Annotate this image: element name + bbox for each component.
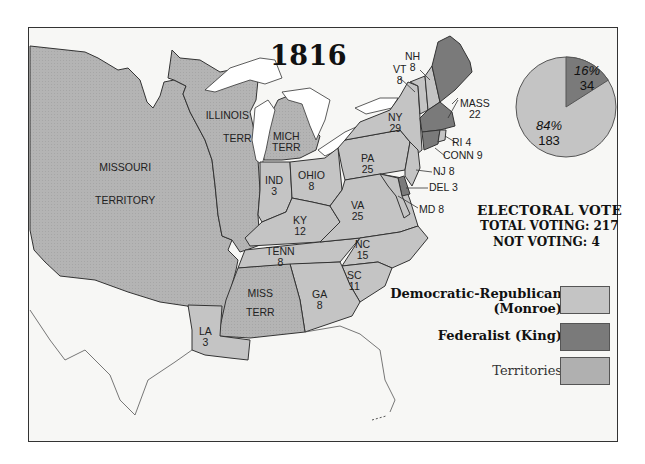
total-voting: TOTAL VOTING: 217 (480, 219, 619, 233)
state-votes: 8 (298, 181, 325, 192)
legend-label-federalist: Federalist (King) (438, 328, 562, 343)
florida-coast (305, 326, 395, 412)
label-line: MISSOURI (95, 162, 155, 173)
label-michigan-territory: MICH TERR (272, 131, 301, 153)
label-missouri-territory: MISSOURI TERRITORY (95, 162, 155, 206)
state-votes: 12 (293, 226, 307, 237)
electoral-pie (516, 57, 616, 157)
pie-federalist-label: 16% 34 (574, 63, 600, 93)
label-ga: GA8 (312, 289, 327, 311)
state-votes: 8 (405, 62, 420, 73)
label-mass: MASS22 (460, 98, 490, 120)
electoral-vote-heading: ELECTORAL VOTE (477, 202, 622, 218)
legend-label-territories: Territories (492, 363, 562, 378)
state-votes: 25 (361, 164, 374, 175)
pie-dr-label: 84% 183 (536, 118, 562, 148)
state-votes: 25 (351, 211, 364, 222)
legend-swatch-federalist (560, 323, 610, 351)
legend-label-dr: Democratic-Republican (Monroe) (390, 286, 562, 316)
state-mass-maine (432, 36, 472, 102)
label-line: TERRITORY (95, 195, 155, 206)
legend-swatch-dr (560, 286, 610, 314)
label-nj: NJ 8 (433, 166, 455, 177)
state-votes: 8 (312, 300, 327, 311)
state-votes: 29 (388, 123, 403, 134)
label-nc: NC15 (355, 239, 370, 261)
pie-dr-pct: 84% (536, 118, 562, 133)
label-del: DEL 3 (429, 182, 458, 193)
state-votes: 8 (393, 75, 406, 86)
label-line: ILLINOIS (203, 110, 252, 121)
label-md: MD 8 (419, 204, 444, 215)
state-votes: 22 (460, 109, 490, 120)
label-illinois-territory: ILLINOIS TERR (203, 110, 252, 144)
map-title: 1816 (270, 40, 347, 71)
label-sc: SC11 (347, 270, 362, 292)
label-conn: CONN 9 (443, 150, 483, 161)
pie-dr-votes: 183 (536, 133, 562, 148)
pie-fed-pct: 16% (574, 63, 600, 78)
state-votes: 3 (265, 186, 283, 197)
label-va: VA25 (351, 200, 364, 222)
label-nh: NH8 (405, 51, 420, 73)
state-ri (438, 130, 446, 142)
state-votes: 8 (266, 257, 295, 268)
legend-line: (Monroe) (390, 301, 562, 316)
pie-fed-votes: 34 (574, 78, 600, 93)
label-line: TERR (223, 133, 252, 144)
keys-dashes (372, 416, 386, 420)
label-la: LA3 (199, 326, 212, 348)
state-conn (422, 130, 440, 150)
label-ky: KY12 (293, 215, 307, 237)
legend-line: Federalist (King) (438, 328, 562, 343)
label-ind: IND3 (265, 175, 283, 197)
label-line: MISS (246, 288, 275, 299)
legend-swatch-territories (560, 357, 610, 385)
legend-line: Democratic-Republican (390, 286, 562, 301)
label-ohio: OHIO8 (298, 170, 325, 192)
label-line: TERR (272, 142, 301, 153)
legend-line: Territories (492, 363, 562, 378)
label-ri: RI 4 (452, 137, 471, 148)
label-miss-territory: MISS TERR (246, 288, 275, 318)
label-tenn: TENN8 (266, 246, 295, 268)
state-votes: 15 (355, 250, 370, 261)
label-pa: PA25 (361, 153, 374, 175)
texas-coast (30, 310, 192, 415)
label-ny: NY29 (388, 112, 403, 134)
not-voting: NOT VOTING: 4 (493, 235, 600, 249)
state-votes: 3 (199, 337, 212, 348)
state-votes: 11 (347, 281, 362, 292)
label-line: TERR (246, 307, 275, 318)
